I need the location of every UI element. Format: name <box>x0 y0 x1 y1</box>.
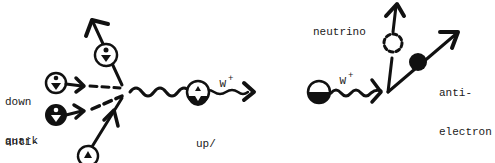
w-boson-symbol: W <box>219 78 226 90</box>
incoming-down-quark <box>46 73 120 93</box>
w-boson-label-left: W+ <box>193 65 231 105</box>
anti-down-label: anti- down <box>5 110 38 163</box>
incoming-anti-down-quark <box>46 96 122 125</box>
neutrino-line <box>384 4 404 92</box>
anti-electron-label-line2: electron <box>439 126 492 139</box>
anti-electron-label: anti- electron <box>439 61 492 163</box>
down-quark-label-line1: down <box>5 96 38 109</box>
anti-down-label-line1: anti- <box>5 136 38 149</box>
neutrino-label: neutrino <box>313 26 366 39</box>
w-boson-label-right: W+ <box>313 62 351 102</box>
down-quark-particle-icon <box>95 44 117 66</box>
anti-electron-label-line1: anti- <box>439 87 492 100</box>
w-boson-charge: + <box>348 71 353 81</box>
feynman-style-diagram: down quark anti- down W+ up/ anti-down W… <box>0 0 495 163</box>
w-boson-charge: + <box>228 74 233 84</box>
w-boson-symbol: W <box>339 75 346 87</box>
up-anti-down-label-line1: up/ <box>196 138 255 151</box>
up-anti-down-label: up/ anti-down <box>196 112 255 163</box>
incoming-up-quark-line <box>78 98 122 163</box>
